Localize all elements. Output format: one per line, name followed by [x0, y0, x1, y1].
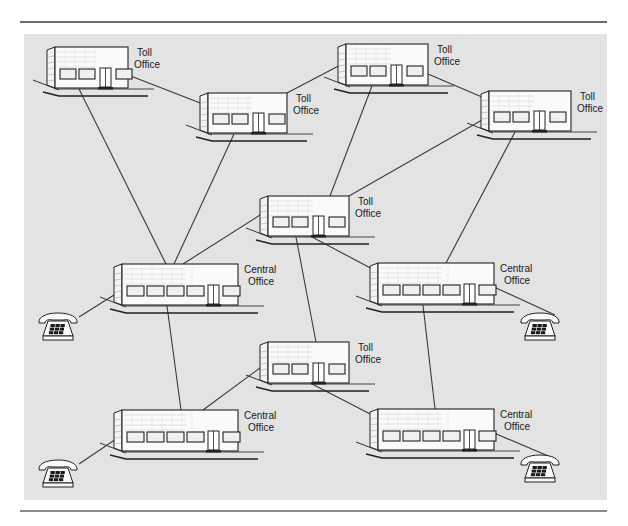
window	[60, 69, 76, 79]
window	[223, 286, 240, 296]
building-label-line1: Toll	[358, 342, 373, 353]
building-central-1: CentralOffice	[100, 264, 276, 313]
curb-line	[334, 89, 448, 93]
link-toll-5-toll-6	[296, 237, 316, 342]
building-toll-2: TollOffice	[186, 93, 319, 141]
building-label-line1: Central	[500, 409, 532, 420]
window	[147, 286, 164, 296]
building-toll-4: TollOffice	[467, 91, 603, 139]
link-central-4-phone-4	[494, 433, 553, 458]
building-front	[346, 44, 428, 85]
curb-line	[110, 309, 258, 313]
building-side	[370, 409, 378, 450]
window	[403, 431, 420, 441]
telephone-icon	[39, 460, 77, 487]
building-toll-3: TollOffice	[324, 44, 460, 93]
curb-line	[256, 240, 369, 244]
window	[443, 285, 460, 295]
building-front	[378, 263, 494, 304]
window	[370, 66, 386, 76]
curb-line	[110, 455, 258, 459]
window	[403, 285, 420, 295]
building-label-line2: Office	[434, 56, 460, 67]
building-label-line1: Central	[500, 263, 532, 274]
building-label-line2: Office	[355, 208, 381, 219]
window	[550, 112, 566, 122]
building-label-line2: Office	[248, 422, 274, 433]
door-step	[311, 235, 326, 238]
link-toll-4-central-2	[446, 132, 515, 263]
window	[79, 69, 95, 79]
network-diagram: TollOfficeTollOfficeTollOfficeTollOffice…	[0, 0, 628, 526]
building-label-line2: Office	[293, 105, 319, 116]
window	[329, 217, 345, 227]
link-central-1-central-3	[167, 306, 181, 410]
building-side	[114, 264, 122, 305]
window	[423, 285, 440, 295]
link-toll-4-toll-5	[349, 116, 489, 196]
window	[351, 66, 367, 76]
link-toll-3-toll-5	[330, 86, 372, 196]
window	[232, 114, 248, 124]
building-side	[370, 263, 378, 304]
link-toll-5-central-2	[312, 237, 378, 272]
building-label-line1: Central	[244, 264, 276, 275]
building-toll-1: TollOffice	[33, 47, 160, 96]
building-central-3: CentralOffice	[100, 410, 276, 459]
door-step	[462, 303, 477, 306]
door-step	[389, 84, 404, 87]
window	[383, 285, 400, 295]
window	[223, 432, 240, 442]
building-label-line1: Toll	[580, 91, 595, 102]
window	[167, 432, 184, 442]
link-toll-6-central-4	[312, 384, 378, 418]
telephone-icon	[521, 313, 559, 340]
building-side	[114, 410, 122, 451]
building-label-line1: Central	[244, 410, 276, 421]
window	[187, 432, 204, 442]
building-label-line2: Office	[504, 421, 530, 432]
telephone-icon	[521, 455, 559, 482]
building-label-line2: Office	[577, 103, 603, 114]
window	[273, 364, 289, 374]
window	[147, 432, 164, 442]
phones-layer	[39, 313, 559, 487]
building-label-line1: Toll	[137, 47, 152, 58]
door-step	[462, 449, 477, 452]
building-front	[122, 410, 238, 451]
building-central-2: CentralOffice	[356, 263, 532, 312]
window	[292, 364, 308, 374]
window	[127, 432, 144, 442]
building-side	[338, 44, 346, 85]
building-label-line2: Office	[248, 276, 274, 287]
building-label-line2: Office	[134, 59, 160, 70]
building-front	[55, 47, 128, 88]
window	[116, 69, 132, 79]
curb-line	[196, 137, 307, 141]
window	[407, 66, 423, 76]
window	[513, 112, 529, 122]
door-step	[206, 450, 221, 453]
link-toll-1-central-1	[79, 89, 166, 264]
telephone-icon	[39, 313, 77, 340]
curb-line	[43, 92, 148, 96]
window	[383, 431, 400, 441]
window	[423, 431, 440, 441]
link-central-2-phone-2	[494, 287, 555, 315]
window	[292, 217, 308, 227]
curb-line	[256, 387, 369, 391]
building-front	[268, 342, 349, 383]
building-label-line1: Toll	[296, 93, 311, 104]
link-toll-2-central-1	[174, 134, 234, 264]
door-step	[251, 132, 266, 135]
door-step	[532, 130, 547, 133]
door-step	[206, 304, 221, 307]
window	[443, 431, 460, 441]
building-front	[378, 409, 494, 450]
curb-line	[477, 135, 591, 139]
window	[494, 112, 510, 122]
nodes-layer: TollOfficeTollOfficeTollOfficeTollOffice…	[33, 44, 603, 459]
window	[167, 286, 184, 296]
window	[269, 114, 285, 124]
curb-line	[366, 308, 514, 312]
